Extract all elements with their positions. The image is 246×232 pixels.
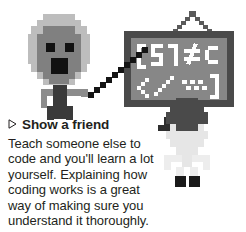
triangle-right-icon xyxy=(8,119,17,129)
teacher-face xyxy=(37,26,81,84)
teacher-mouth xyxy=(51,58,68,74)
teacher-torso xyxy=(53,85,67,119)
tip-body-text: Teach someone else to code and you'll le… xyxy=(0,136,160,228)
tip-heading: Show a friend xyxy=(0,116,160,132)
teacher-right-arm xyxy=(67,89,88,97)
tip-block: Show a friend Teach someone else to code… xyxy=(0,116,160,228)
tip-title: Show a friend xyxy=(22,117,109,132)
code-board xyxy=(124,31,234,107)
tip-card: Show a friend Teach someone else to code… xyxy=(0,0,246,232)
